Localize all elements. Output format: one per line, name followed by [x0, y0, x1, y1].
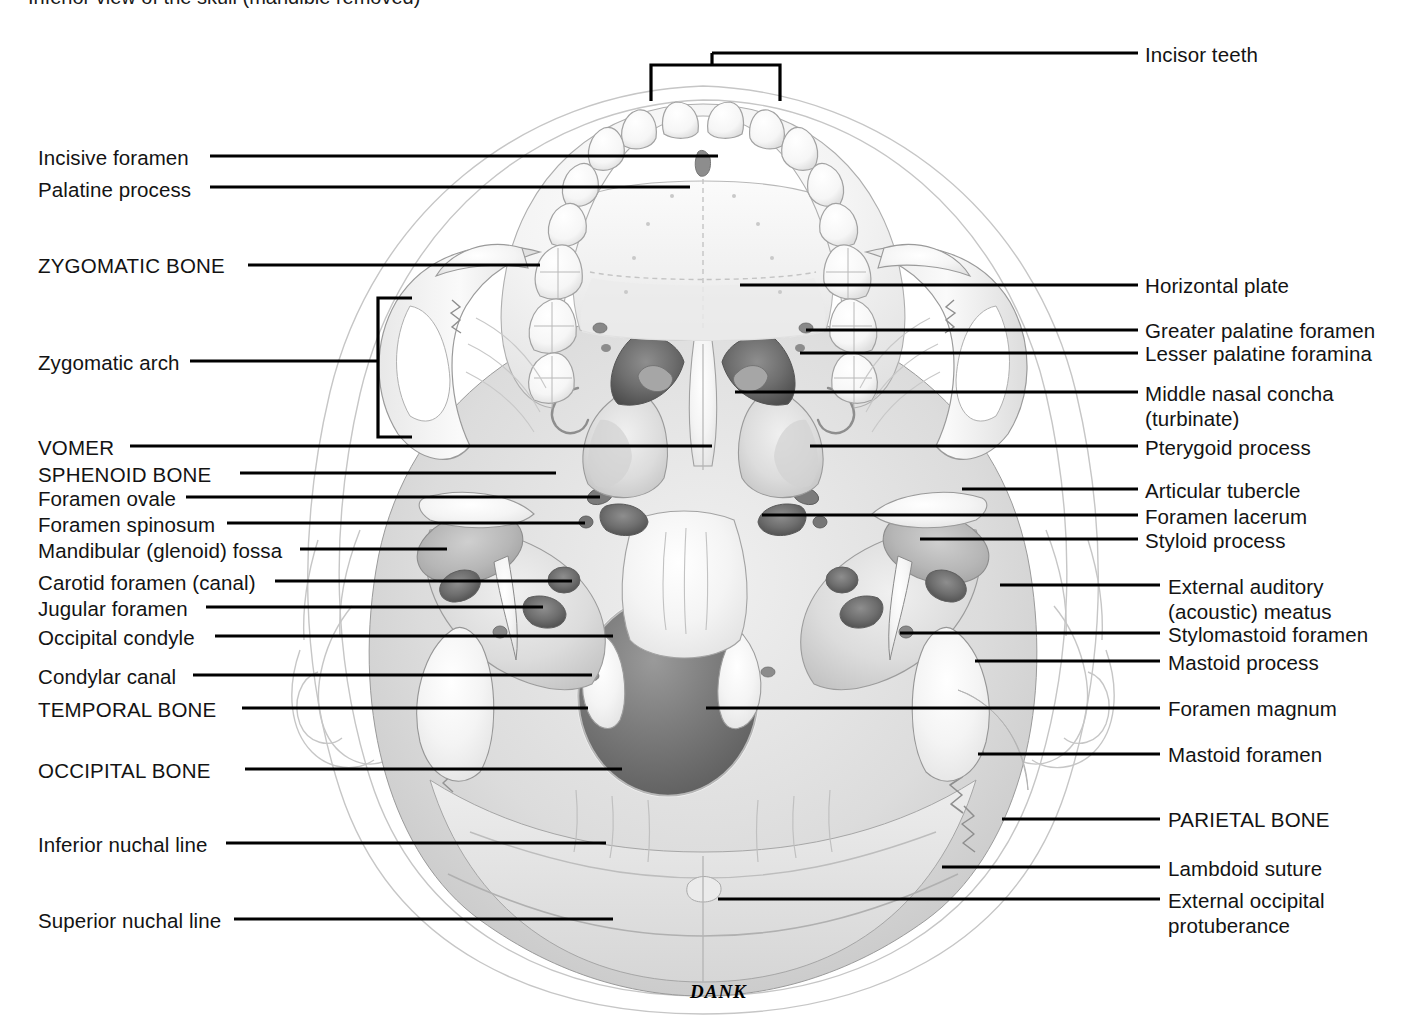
label-line-1: Mastoid process: [1168, 651, 1319, 674]
label-styloid-process[interactable]: Styloid process: [1145, 528, 1286, 553]
label-articular-tubercle[interactable]: Articular tubercle: [1145, 478, 1301, 503]
label-line-1: Foramen magnum: [1168, 697, 1337, 720]
label-occipital-condyle[interactable]: Occipital condyle: [38, 625, 195, 650]
label-line-1: Lambdoid suture: [1168, 857, 1322, 880]
horizontal-plate-feature: [580, 278, 825, 341]
label-foramen-ovale[interactable]: Foramen ovale: [38, 486, 176, 511]
label-mastoid-process[interactable]: Mastoid process: [1168, 650, 1319, 675]
label-zygomatic-arch[interactable]: Zygomatic arch: [38, 350, 180, 375]
label-occipital-bone[interactable]: OCCIPITAL BONE: [38, 758, 211, 783]
label-lambdoid-suture[interactable]: Lambdoid suture: [1168, 856, 1322, 881]
label-line-2: protuberance: [1168, 914, 1290, 937]
label-jugular-foramen[interactable]: Jugular foramen: [38, 596, 188, 621]
label-line-1: Lesser palatine foramina: [1145, 342, 1372, 365]
label-middle-nasal-concha[interactable]: Middle nasal concha(turbinate): [1145, 381, 1334, 431]
incisive-foramen-feature: [695, 150, 710, 176]
label-sphenoid-bone[interactable]: SPHENOID BONE: [38, 462, 211, 487]
label-palatine-process[interactable]: Palatine process: [38, 177, 191, 202]
carotid-canal-right-feature: [826, 567, 858, 593]
label-condylar-canal[interactable]: Condylar canal: [38, 664, 176, 689]
label-mandibular-fossa[interactable]: Mandibular (glenoid) fossa: [38, 538, 282, 563]
label-line-1: Incisor teeth: [1145, 43, 1258, 66]
label-pterygoid-process[interactable]: Pterygoid process: [1145, 435, 1311, 460]
label-foramen-spinosum[interactable]: Foramen spinosum: [38, 512, 215, 537]
label-line-1: Articular tubercle: [1145, 479, 1301, 502]
label-line-1: Middle nasal concha: [1145, 382, 1334, 405]
label-superior-nuchal[interactable]: Superior nuchal line: [38, 908, 221, 933]
label-line-1: Pterygoid process: [1145, 436, 1311, 459]
label-incisor-teeth[interactable]: Incisor teeth: [1145, 42, 1258, 67]
label-foramen-magnum[interactable]: Foramen magnum: [1168, 696, 1337, 721]
label-line-1: External occipital: [1168, 889, 1325, 912]
label-line-1: Horizontal plate: [1145, 274, 1289, 297]
foramen-spinosum-right-feature: [813, 516, 827, 528]
label-line-1: Foramen lacerum: [1145, 505, 1307, 528]
label-mastoid-foramen[interactable]: Mastoid foramen: [1168, 742, 1322, 767]
label-stylomastoid-foramen[interactable]: Stylomastoid foramen: [1168, 622, 1368, 647]
label-line-1: External auditory: [1168, 575, 1324, 598]
label-lesser-palatine[interactable]: Lesser palatine foramina: [1145, 341, 1372, 366]
label-line-1: Stylomastoid foramen: [1168, 623, 1368, 646]
label-line-1: Greater palatine foramen: [1145, 319, 1375, 342]
label-line-1: Styloid process: [1145, 529, 1286, 552]
label-carotid-foramen[interactable]: Carotid foramen (canal): [38, 570, 256, 595]
label-line-1: PARIETAL BONE: [1168, 808, 1330, 831]
label-horizontal-plate[interactable]: Horizontal plate: [1145, 273, 1289, 298]
label-incisive-foramen[interactable]: Incisive foramen: [38, 145, 189, 170]
label-line-1: Mastoid foramen: [1168, 743, 1322, 766]
label-greater-palatine[interactable]: Greater palatine foramen: [1145, 318, 1375, 343]
label-zygomatic-bone[interactable]: ZYGOMATIC BONE: [38, 253, 225, 278]
label-inferior-nuchal[interactable]: Inferior nuchal line: [38, 832, 208, 857]
external-occipital-protuberance-feature: [687, 877, 721, 903]
lesser-palatine-foramen-right-feature: [795, 344, 805, 352]
condylar-canal-right-feature: [761, 667, 775, 677]
label-foramen-lacerum[interactable]: Foramen lacerum: [1145, 504, 1307, 529]
label-line-2: (acoustic) meatus: [1168, 600, 1331, 623]
label-parietal-bone[interactable]: PARIETAL BONE: [1168, 807, 1330, 832]
label-external-auditory[interactable]: External auditory(acoustic) meatus: [1168, 574, 1331, 624]
incisor-teeth-bracket: [651, 65, 780, 101]
greater-palatine-foramen-left-feature: [593, 323, 607, 333]
label-vomer[interactable]: VOMER: [38, 435, 114, 460]
lesser-palatine-foramen-left-feature: [601, 344, 611, 352]
label-temporal-bone[interactable]: TEMPORAL BONE: [38, 697, 216, 722]
artist-signature: DANK: [689, 981, 747, 1002]
label-external-occipital[interactable]: External occipitalprotuberance: [1168, 888, 1325, 938]
label-line-2: (turbinate): [1145, 407, 1240, 430]
